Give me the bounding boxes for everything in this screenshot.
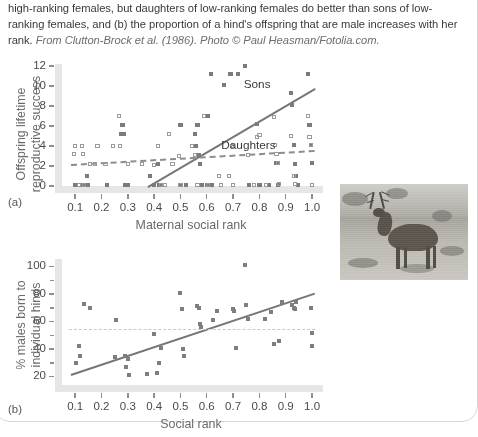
data-point xyxy=(206,183,210,187)
x-axis-tick xyxy=(180,393,181,398)
data-point xyxy=(81,152,85,156)
x-axis-tick xyxy=(180,194,181,199)
data-point xyxy=(306,72,310,76)
data-point xyxy=(114,318,118,322)
data-point xyxy=(197,306,201,310)
data-point xyxy=(159,346,163,350)
data-point xyxy=(122,132,126,136)
data-point xyxy=(277,182,281,186)
data-point xyxy=(232,309,236,313)
data-point xyxy=(145,372,149,376)
x-axis-tick xyxy=(74,194,75,199)
data-point xyxy=(80,144,84,148)
x-axis-tick-label: 0.9 xyxy=(272,201,300,213)
y-axis-band xyxy=(55,259,62,387)
photo-grain-overlay xyxy=(340,184,468,280)
y-axis-tick xyxy=(49,266,54,267)
y-axis-title: Offspring lifetimereproductive success xyxy=(14,62,44,206)
data-point xyxy=(222,83,226,87)
scatter-plot-a: 0246810120.10.20.30.40.50.60.70.80.91.0S… xyxy=(62,66,320,186)
data-point xyxy=(155,371,159,375)
data-point xyxy=(244,303,248,307)
data-point xyxy=(310,161,314,165)
data-point xyxy=(113,355,117,359)
x-axis-tick-label: 0.5 xyxy=(166,400,194,412)
data-point xyxy=(177,154,181,158)
x-axis-title: Maternal social rank xyxy=(62,218,320,232)
y-axis-tick xyxy=(49,376,54,377)
data-point xyxy=(184,183,188,187)
data-point xyxy=(127,373,131,377)
data-point xyxy=(289,134,293,138)
panel-letter: (b) xyxy=(8,403,22,415)
x-axis-tick xyxy=(232,393,233,398)
data-point xyxy=(178,123,182,127)
data-point xyxy=(293,182,297,186)
x-axis-tick-label: 0.1 xyxy=(61,201,89,213)
data-point xyxy=(73,144,77,148)
data-point xyxy=(276,161,280,165)
data-point xyxy=(263,317,267,321)
x-axis-tick-label: 0.9 xyxy=(272,400,300,412)
x-axis-tick xyxy=(232,194,233,199)
data-point xyxy=(194,144,198,148)
panel-letter: (a) xyxy=(8,196,22,208)
data-point xyxy=(199,183,203,187)
data-point xyxy=(294,300,298,304)
caption-source: From Clutton-Brock et al. (1986). Photo … xyxy=(36,34,380,46)
data-point xyxy=(257,183,261,187)
data-point xyxy=(157,361,161,365)
data-point xyxy=(190,144,194,148)
data-point xyxy=(82,183,86,187)
x-axis-tick-label: 0.2 xyxy=(87,201,115,213)
x-axis-tick xyxy=(206,393,207,398)
data-point xyxy=(77,183,81,187)
data-point xyxy=(307,123,311,127)
y-axis-tick xyxy=(49,105,54,106)
data-point xyxy=(247,183,251,187)
y-axis-title: % males born toindividual hinds xyxy=(14,251,44,399)
data-point xyxy=(310,344,314,348)
x-axis-tick-label: 0.1 xyxy=(61,400,89,412)
y-axis-band xyxy=(55,64,62,188)
data-point xyxy=(88,306,92,310)
x-axis-band xyxy=(55,186,323,193)
data-point xyxy=(156,144,160,148)
data-point xyxy=(293,162,297,166)
data-point xyxy=(86,183,90,187)
data-point xyxy=(167,132,171,136)
x-axis-title: Social rank xyxy=(62,417,320,431)
x-axis-tick xyxy=(101,393,102,398)
data-point xyxy=(117,114,121,118)
data-point xyxy=(252,183,256,187)
x-axis-tick-label: 0.4 xyxy=(140,400,168,412)
data-point xyxy=(264,183,268,187)
x-axis-band xyxy=(55,385,323,392)
data-point xyxy=(180,307,184,311)
data-point xyxy=(307,135,311,139)
data-point xyxy=(277,339,281,343)
data-point xyxy=(292,143,296,147)
data-point xyxy=(306,114,310,118)
data-point xyxy=(182,354,186,358)
data-point xyxy=(126,183,130,187)
series-label-daughters: Daughters xyxy=(221,138,275,152)
data-point xyxy=(152,332,156,336)
data-point xyxy=(111,144,115,148)
x-axis-tick xyxy=(285,393,286,398)
data-point xyxy=(163,183,167,187)
data-point xyxy=(148,174,152,178)
data-point xyxy=(178,183,182,187)
y-axis-tick xyxy=(49,321,54,322)
x-axis-tick xyxy=(285,194,286,199)
data-point xyxy=(234,346,238,350)
y-axis-minor-tick xyxy=(50,307,54,308)
x-axis-tick-label: 1.0 xyxy=(298,400,326,412)
data-point xyxy=(243,64,247,68)
data-point xyxy=(290,103,294,107)
scatter-plot-b: 204060801000.10.20.30.40.50.60.70.80.91.… xyxy=(62,261,320,385)
x-axis-tick xyxy=(74,393,75,398)
y-axis-minor-tick xyxy=(50,362,54,363)
data-point xyxy=(126,162,130,166)
y-axis-tick xyxy=(49,125,54,126)
